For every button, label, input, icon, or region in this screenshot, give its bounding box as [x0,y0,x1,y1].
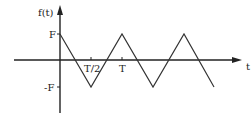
y-axis-label: f(t) [38,7,54,18]
tick-label-minus-F: -F [44,82,54,93]
tick-label-half-period: T/2 [84,63,100,74]
tick-label-F: F [49,29,56,40]
diagram-svg: f(t) t F -F T/2 T [0,0,252,117]
y-axis-arrow-icon [57,5,63,15]
x-axis-arrow-icon [232,57,242,63]
x-axis-label: t [246,61,250,72]
triangle-wave-diagram: f(t) t F -F T/2 T [0,0,252,117]
tick-label-period: T [119,63,126,74]
